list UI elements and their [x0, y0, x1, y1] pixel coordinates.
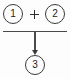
- node-operand-1-label: 1: [10, 9, 16, 19]
- node-operand-2[interactable]: 2: [45, 4, 65, 24]
- node-operand-1[interactable]: 1: [3, 4, 23, 24]
- node-result-3[interactable]: 3: [25, 55, 45, 75]
- node-result-3-label: 3: [32, 60, 38, 70]
- plus-vertical-stroke: [34, 10, 35, 19]
- arrow-shaft: [34, 31, 35, 52]
- diagram-canvas: 1 2 3: [0, 0, 71, 79]
- plus-sign-icon: [29, 9, 40, 20]
- node-operand-2-label: 2: [52, 9, 58, 19]
